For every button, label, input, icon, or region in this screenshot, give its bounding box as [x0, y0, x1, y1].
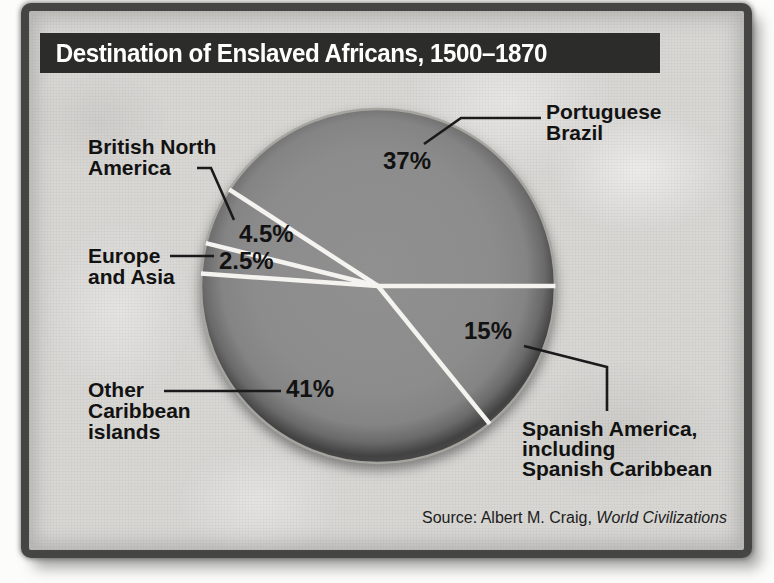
label-spanish-america: Spanish America, including Spanish Carib…: [522, 419, 712, 479]
source-prefix: Source: Albert M. Craig,: [422, 509, 592, 526]
label-line: and Asia: [88, 266, 175, 287]
label-line: Europe: [88, 245, 175, 266]
label-line: Brazil: [546, 122, 662, 143]
value-label-37: 37%: [383, 149, 431, 173]
label-line: Spanish Caribbean: [522, 459, 712, 479]
source-work-title: World Civilizations: [596, 509, 727, 526]
value-label-2-5: 2.5%: [219, 249, 274, 273]
figure-scan: Destination of Enslaved Africans, 1500–1…: [0, 0, 774, 583]
value-label-41: 41%: [286, 377, 334, 401]
label-portuguese-brazil: Portuguese Brazil: [546, 101, 662, 143]
pie-chart-graphic: [0, 0, 774, 583]
source-credit: Source: Albert M. Craig,World Civilizati…: [422, 508, 727, 527]
label-line: Caribbean: [88, 400, 191, 421]
label-line: including: [522, 439, 712, 459]
label-line: Portuguese: [546, 101, 662, 122]
label-british-north-america: British North America: [88, 136, 216, 178]
label-other-caribbean: Other Caribbean islands: [88, 379, 191, 442]
label-line: British North: [88, 136, 216, 157]
label-line: Spanish America,: [522, 419, 712, 439]
value-label-15: 15%: [464, 319, 512, 343]
label-line: America: [88, 157, 216, 178]
label-line: islands: [88, 421, 191, 442]
label-line: Other: [88, 379, 191, 400]
label-europe-and-asia: Europe and Asia: [88, 245, 175, 287]
value-label-4-5: 4.5%: [239, 222, 294, 246]
